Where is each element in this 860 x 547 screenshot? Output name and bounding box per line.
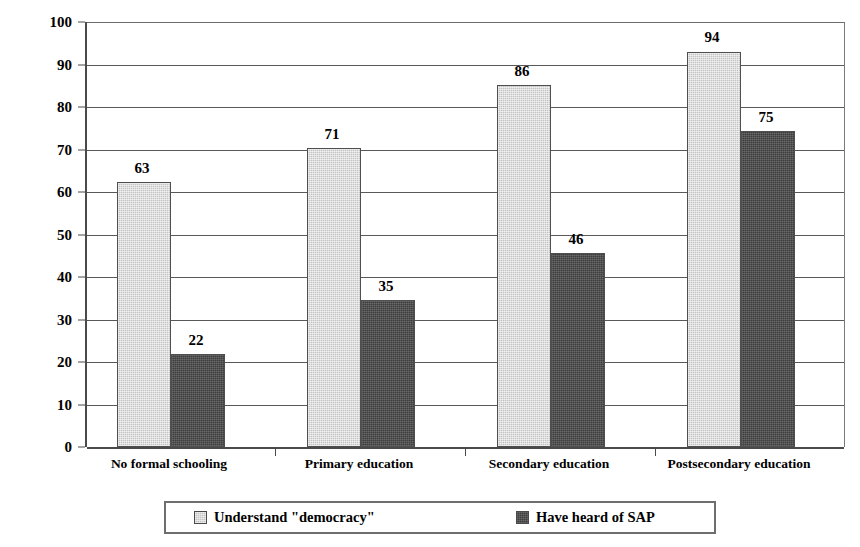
bar-value-label: 86: [487, 64, 557, 79]
y-axis-tick-mark: [78, 319, 85, 320]
bar-value-label: 63: [107, 161, 177, 176]
bar: [497, 85, 551, 447]
x-axis-category-label: Primary education: [259, 456, 459, 472]
y-axis-tick-mark: [78, 22, 85, 23]
y-axis-tick-mark: [78, 149, 85, 150]
bar-value-label: 75: [731, 110, 801, 125]
plot-area: [85, 22, 845, 447]
y-axis-tick-mark: [78, 234, 85, 235]
bar: [741, 131, 795, 447]
x-axis-category-label: Postsecondary education: [639, 456, 839, 472]
bar: [117, 182, 171, 447]
bar: [171, 354, 225, 447]
gridline: [87, 22, 844, 23]
y-axis-tick-label: 90: [12, 57, 72, 72]
y-axis-tick-label: 0: [12, 440, 72, 455]
y-axis-tick-label: 30: [12, 312, 72, 327]
bar-chart: Percent 0102030405060708090100 No formal…: [0, 0, 860, 547]
y-axis-tick-mark: [78, 404, 85, 405]
legend-label-series-a: Understand "democracy": [214, 509, 375, 526]
y-axis-tick-label: 50: [12, 227, 72, 242]
x-axis-tick-mark: [275, 447, 276, 456]
bar-value-label: 71: [297, 127, 367, 142]
y-axis-tick-mark: [78, 64, 85, 65]
bar-value-label: 46: [541, 232, 611, 247]
y-axis-tick-mark: [78, 447, 85, 448]
x-axis-tick-mark: [465, 447, 466, 456]
bar: [361, 300, 415, 447]
y-axis-tick-label: 80: [12, 100, 72, 115]
legend-swatch-icon-series-a: [194, 511, 207, 524]
y-axis-tick-label: 20: [12, 355, 72, 370]
chart-legend: Understand "democracy" Have heard of SAP: [164, 501, 716, 534]
x-axis-tick-mark: [655, 447, 656, 456]
x-axis-category-label: No formal schooling: [69, 456, 269, 472]
bar: [551, 253, 605, 447]
bar-value-label: 35: [351, 279, 421, 294]
y-axis-tick-mark: [78, 107, 85, 108]
bar: [307, 148, 361, 447]
y-axis-tick-label: 40: [12, 270, 72, 285]
x-axis-category-label: Secondary education: [449, 456, 649, 472]
y-axis-tick-mark: [78, 362, 85, 363]
y-axis-tick-label: 60: [12, 185, 72, 200]
y-axis-tick-mark: [78, 192, 85, 193]
legend-swatch-icon-series-b: [516, 511, 529, 524]
y-axis-tick-label: 10: [12, 397, 72, 412]
y-axis-tick-label: 100: [12, 15, 72, 30]
legend-label-series-b: Have heard of SAP: [536, 509, 655, 526]
y-axis-tick-label: 70: [12, 142, 72, 157]
legend-entry-understand-democracy: Understand "democracy": [194, 503, 375, 532]
bar-value-label: 94: [677, 30, 747, 45]
y-axis-tick-mark: [78, 277, 85, 278]
legend-entry-have-heard-of-sap: Have heard of SAP: [516, 503, 655, 532]
bar-value-label: 22: [161, 333, 231, 348]
